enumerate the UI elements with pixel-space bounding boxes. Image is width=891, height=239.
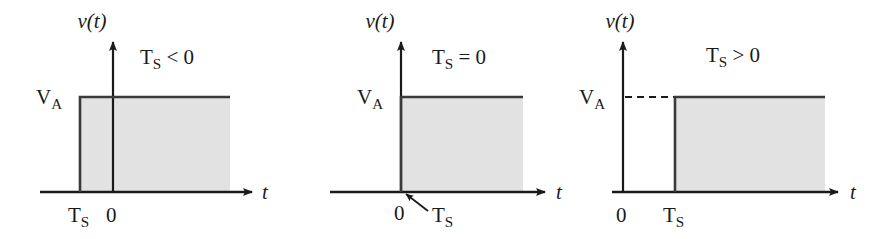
amplitude-sub-panel-2: A	[372, 96, 383, 112]
condition-label-panel-2: TS = 0	[432, 45, 486, 72]
y-axis-label-panel-3: v(t)	[605, 9, 634, 33]
amplitude-sub-panel-3: A	[594, 96, 605, 112]
condition-var-panel-2: T	[432, 45, 445, 69]
condition-rel-panel-3: > 0	[727, 43, 760, 67]
step-time-sub-panel-2: S	[445, 214, 453, 230]
amplitude-var-panel-2: V	[357, 85, 372, 109]
origin-label-panel-3: 0	[616, 203, 627, 227]
condition-var-panel-3: T	[706, 43, 719, 67]
origin-label-panel-1: 0	[106, 203, 117, 227]
figure-root: v(t) TS < 0 VA TS 0 t v(t) TS = 0	[0, 0, 891, 239]
origin-label-panel-2: 0	[394, 201, 405, 225]
step-time-var-panel-1: T	[68, 203, 81, 227]
condition-label-panel-3: TS > 0	[706, 43, 760, 70]
condition-sub-panel-1: S	[153, 56, 161, 72]
step-time-sub-panel-3: S	[676, 214, 684, 230]
condition-var-panel-1: T	[140, 45, 153, 69]
waveform-figure: v(t) TS < 0 VA TS 0 t v(t) TS = 0	[0, 0, 891, 239]
step-time-var-panel-3: T	[663, 203, 676, 227]
y-axis-label-panel-2: v(t)	[365, 9, 394, 33]
amplitude-sub-panel-1: A	[51, 96, 62, 112]
condition-rel-panel-1: < 0	[161, 45, 194, 69]
amplitude-var-panel-3: V	[579, 85, 594, 109]
step-time-var-panel-2: T	[432, 203, 445, 227]
step-time-sub-panel-1: S	[81, 214, 89, 230]
condition-label-panel-1: TS < 0	[140, 45, 194, 72]
condition-sub-panel-2: S	[445, 56, 453, 72]
shaded-region-panel-2	[401, 97, 523, 192]
shaded-region-panel-3	[675, 97, 825, 192]
amplitude-var-panel-1: V	[36, 85, 51, 109]
condition-sub-panel-3: S	[719, 54, 727, 70]
condition-rel-panel-2: = 0	[453, 45, 486, 69]
y-axis-label-panel-1: v(t)	[77, 9, 106, 33]
shaded-region-panel-1	[80, 97, 230, 192]
